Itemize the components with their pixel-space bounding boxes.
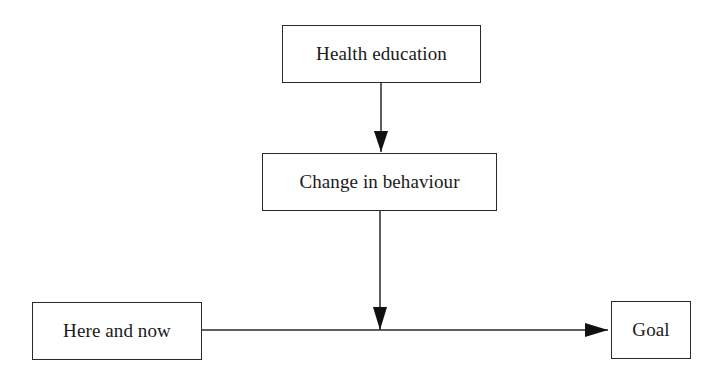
- node-health-education: Health education: [282, 25, 481, 83]
- node-label: Health education: [316, 43, 447, 65]
- edge-here-and-now-to-goal: [202, 323, 608, 337]
- node-change-in-behaviour: Change in behaviour: [262, 153, 497, 211]
- arrowhead-icon: [585, 323, 608, 337]
- node-label: Here and now: [63, 320, 171, 342]
- edge-change-in-behaviour-to-path: [373, 211, 387, 330]
- node-label: Change in behaviour: [299, 171, 459, 193]
- diagram-canvas: Health education Change in behaviour Her…: [0, 0, 720, 381]
- edge-health-education-to-change-in-behaviour: [374, 83, 388, 152]
- arrowhead-icon: [374, 131, 388, 152]
- node-label: Goal: [632, 319, 669, 341]
- node-goal: Goal: [611, 301, 691, 359]
- arrowhead-icon: [373, 307, 387, 330]
- node-here-and-now: Here and now: [32, 302, 202, 360]
